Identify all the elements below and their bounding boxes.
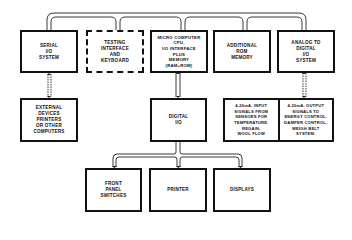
signals-box: 4-20mA. INPUT SIGNALS FROM SENSORS FOR T…: [223, 98, 334, 142]
front-panel-switches-box: FRONT PANEL SWITCHES: [85, 168, 142, 212]
additional-rom-label: ADDITIONAL ROM MEMORY: [227, 43, 257, 61]
digital-io-box: DIGITAL I/O: [150, 98, 207, 142]
front-panel-switches-label: FRONT PANEL SWITCHES: [101, 181, 127, 199]
microcomputer-box: MICRO COMPUTER CPU, I/O INTERFACE PLUS M…: [150, 30, 208, 73]
printer-label: PRINTER: [167, 187, 189, 193]
printer-box: PRINTER: [149, 168, 207, 212]
serial-io-box: SERIAL I/O SYSTEM: [20, 30, 78, 73]
output-signals-label: 4-20mA. OUTPUT SIGNALS TO ENERGY CONTROL…: [284, 103, 327, 137]
input-signals-label: 4-20mA. INPUT SIGNALS FROM SENSORS FOR T…: [234, 103, 268, 137]
microcomputer-label: MICRO COMPUTER CPU, I/O INTERFACE PLUS M…: [158, 35, 201, 69]
serial-io-label: SERIAL I/O SYSTEM: [39, 43, 59, 61]
additional-rom-box: ADDITIONAL ROM MEMORY: [213, 30, 271, 73]
external-devices-label: EXTERNAL DEVICES PRINTERS OR OTHER COMPU…: [33, 105, 64, 135]
output-signals-cell: 4-20mA. OUTPUT SIGNALS TO ENERGY CONTROL…: [278, 100, 333, 140]
testing-interface-box: TESTING INTERFACE AND KEYBOARD: [86, 30, 144, 73]
analog-digital-box: ANALOG TO DIGITAL I/O SYSTEM: [277, 30, 335, 73]
analog-digital-label: ANALOG TO DIGITAL I/O SYSTEM: [291, 40, 320, 64]
external-devices-box: EXTERNAL DEVICES PRINTERS OR OTHER COMPU…: [20, 98, 78, 142]
displays-box: DISPLAYS: [213, 168, 271, 212]
input-signals-cell: 4-20mA. INPUT SIGNALS FROM SENSORS FOR T…: [225, 100, 278, 140]
testing-interface-label: TESTING INTERFACE AND KEYBOARD: [101, 40, 129, 64]
displays-label: DISPLAYS: [230, 187, 254, 193]
digital-io-label: DIGITAL I/O: [169, 114, 188, 126]
